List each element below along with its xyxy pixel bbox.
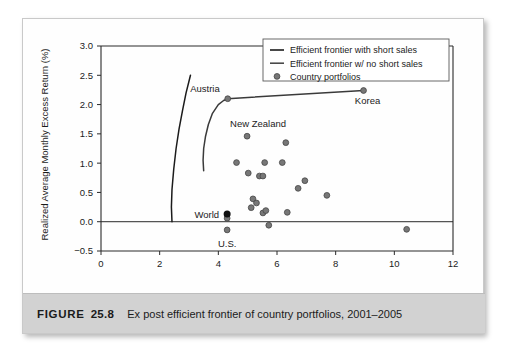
y-tick-label: 0.5 — [80, 187, 93, 198]
country-portfolio-point — [324, 192, 330, 198]
x-tick-label: 12 — [448, 258, 459, 269]
point-label: U.S. — [218, 238, 236, 249]
country-portfolio-point — [260, 173, 266, 179]
x-tick-label: 4 — [216, 258, 221, 269]
country-portfolio-point — [266, 222, 272, 228]
country-portfolio-point — [404, 226, 410, 232]
country-portfolio-point — [244, 133, 250, 139]
y-tick-label: 1.0 — [80, 158, 93, 169]
country-portfolio-point — [225, 96, 231, 102]
country-portfolio-point — [245, 170, 251, 176]
country-portfolio-point — [302, 178, 308, 184]
x-tick-label: 0 — [98, 258, 103, 269]
point-label: World — [194, 209, 219, 220]
country-portfolio-point — [279, 160, 285, 166]
y-tick-label: 1.5 — [80, 128, 93, 139]
y-tick-label: 2.5 — [80, 70, 93, 81]
figure-card: Realized Average Monthly Excess Return (… — [22, 18, 484, 334]
country-portfolio-points — [224, 88, 410, 233]
country-portfolio-point — [361, 88, 367, 94]
y-tick-label: −0.5 — [74, 245, 93, 256]
country-portfolio-point — [254, 200, 260, 206]
caption-text: Ex post efficient frontier of country po… — [127, 308, 402, 320]
y-tick-label: 3.0 — [80, 40, 93, 51]
scatter-chart: −0.50.00.51.01.52.02.53.0 024681012 Aust… — [23, 19, 485, 291]
x-axis-ticks: 024681012 — [98, 251, 458, 269]
world-portfolio-point — [224, 211, 231, 218]
x-tick-label: 8 — [333, 258, 338, 269]
legend-label: Efficient frontier with short sales — [290, 45, 417, 55]
point-label: New Zealand — [230, 118, 286, 129]
figure-caption-band: FIGURE 25.8 Ex post efficient frontier o… — [23, 293, 485, 333]
country-portfolio-point — [224, 227, 230, 233]
country-portfolio-point — [248, 205, 254, 211]
y-tick-label: 0.0 — [80, 216, 93, 227]
y-tick-label: 2.0 — [80, 99, 93, 110]
chart-legend: Efficient frontier with short salesEffic… — [263, 39, 449, 82]
country-portfolio-point — [234, 160, 240, 166]
y-axis-ticks: −0.50.00.51.01.52.02.53.0 — [74, 40, 101, 256]
x-tick-label: 10 — [389, 258, 400, 269]
frontier-line — [203, 91, 363, 171]
y-axis-title: Realized Average Monthly Excess Return (… — [39, 40, 50, 250]
country-portfolio-point — [295, 185, 301, 191]
figure-page: Realized Average Monthly Excess Return (… — [0, 0, 514, 360]
point-annotations: AustriaKoreaNew ZealandWorldU.S. — [190, 83, 381, 249]
country-portfolio-point — [284, 209, 290, 215]
point-label: Austria — [190, 83, 220, 94]
caption-figure-label: FIGURE — [37, 308, 85, 320]
frontier-lines — [171, 75, 363, 221]
country-portfolio-point — [263, 208, 269, 214]
country-portfolio-point — [262, 160, 268, 166]
chart-plot-area: Realized Average Monthly Excess Return (… — [23, 19, 485, 291]
x-tick-label: 6 — [274, 258, 279, 269]
x-tick-label: 2 — [157, 258, 162, 269]
frontier-line — [171, 75, 190, 221]
country-portfolio-point — [283, 140, 289, 146]
caption-figure-number: 25.8 — [91, 308, 115, 320]
legend-marker-swatch — [274, 74, 280, 80]
legend-label: Country portfolios — [290, 72, 361, 82]
point-label: Korea — [355, 95, 381, 106]
legend-label: Efficient frontier w/ no short sales — [290, 59, 423, 69]
